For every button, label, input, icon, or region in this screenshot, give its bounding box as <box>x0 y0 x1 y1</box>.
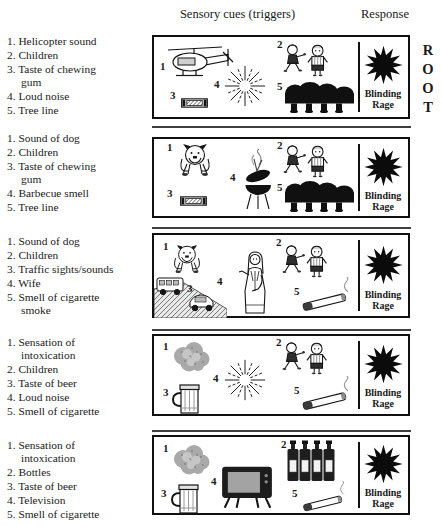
marker-4: 4 <box>211 476 217 487</box>
cue-item: 4. Barbecue smell <box>7 187 153 200</box>
separator-line <box>152 227 411 229</box>
cue-list-4: 1. Sensation of intoxication 2. Children… <box>7 336 153 418</box>
root-letter: O <box>420 79 436 98</box>
bulldog-icon <box>175 143 215 177</box>
response-label: Blinding Rage <box>357 190 409 212</box>
marker-1: 1 <box>163 341 169 352</box>
figure-trigger-diagram: Sensory cues (triggers) Response R O O T… <box>0 0 442 526</box>
marker-5: 5 <box>277 81 283 92</box>
marker-3: 3 <box>187 283 193 294</box>
cue-item: 3. Taste of beer <box>7 480 153 493</box>
noise-starburst-icon <box>222 63 268 109</box>
rage-burst-icon <box>362 245 405 285</box>
header-sensory-cues: Sensory cues (triggers) <box>155 7 320 22</box>
cue-item: 1. Sound of dog <box>7 132 153 145</box>
television-icon <box>219 465 275 509</box>
cue-item: 2. Children <box>7 49 153 62</box>
marker-3: 3 <box>170 90 176 101</box>
cue-item: 1. Sensation of intoxication <box>7 439 153 465</box>
cue-item: 2. Bottles <box>7 466 153 479</box>
cue-item: 5. Tree line <box>7 104 153 117</box>
marker-1: 1 <box>167 142 173 153</box>
children-icon <box>282 144 332 178</box>
cue-item: 5. Smell of cigarette <box>7 508 153 521</box>
cue-item: 3. Taste of chewing gum <box>7 63 153 89</box>
cue-item: 3. Traffic sights/sounds <box>7 263 153 276</box>
separator-line <box>152 126 411 128</box>
root-letter: O <box>420 60 436 79</box>
cue-item: 2. Children <box>7 146 153 159</box>
beer-mug-icon <box>172 383 201 414</box>
cue-item: 5. Tree line <box>7 201 153 214</box>
cue-item: 4. Television <box>7 494 153 507</box>
root-letter: R <box>420 41 436 60</box>
separator-line <box>152 430 411 432</box>
trigger-box-1: 1 3 4 2 5 Blinding Rage <box>152 35 410 119</box>
cue-item: 2. Children <box>7 363 153 376</box>
marker-2: 2 <box>281 439 287 450</box>
cue-list-2: 1. Sound of dog 2. Children 3. Taste of … <box>7 132 153 214</box>
cue-item: 4. Loud noise <box>7 90 153 103</box>
cue-list-5: 1. Sensation of intoxication 2. Bottles … <box>7 439 153 521</box>
marker-4: 4 <box>217 276 223 287</box>
wife-icon <box>238 251 272 315</box>
tree-line-icon <box>284 180 356 213</box>
cue-item: 1. Sound of dog <box>7 235 153 248</box>
marker-3: 3 <box>167 188 173 199</box>
cue-item: 3. Taste of chewing gum <box>7 160 153 186</box>
marker-1: 1 <box>163 443 169 454</box>
cigarette-icon <box>298 376 356 414</box>
marker-3: 3 <box>161 488 167 499</box>
cue-item: 5. Smell of cigarette <box>7 405 153 418</box>
cue-item: 1. Helicopter sound <box>7 35 153 48</box>
intoxication-cloud-icon <box>170 444 212 478</box>
children-icon <box>281 244 331 278</box>
cue-item: 2. Children <box>7 249 153 262</box>
cue-item: 4. Wife <box>7 277 153 290</box>
children-icon <box>281 341 331 375</box>
cigarette-icon <box>298 277 356 315</box>
marker-4: 4 <box>214 79 220 90</box>
intoxication-cloud-icon <box>170 341 212 375</box>
marker-5: 5 <box>277 182 283 193</box>
response-label: Blinding Rage <box>357 289 409 311</box>
rage-burst-icon <box>362 344 405 384</box>
root-label: R O O T <box>420 41 436 117</box>
cue-item: 5. Smell of cigarette smoke <box>7 291 153 317</box>
chewing-gum-icon <box>181 98 208 108</box>
cigarette-icon <box>296 481 354 515</box>
response-label: Blinding Rage <box>357 88 409 110</box>
header-response: Response <box>352 7 418 22</box>
trigger-box-4: 1 3 4 2 5 Blinding Rage <box>152 334 410 416</box>
trigger-box-3: 1 3 4 2 5 Blinding Rage <box>152 233 410 318</box>
bottles-icon <box>287 440 335 482</box>
response-label: Blinding Rage <box>357 487 409 509</box>
noise-starburst-icon <box>222 357 268 403</box>
cue-item: 4. Loud noise <box>7 391 153 404</box>
bulldog-icon <box>169 244 205 274</box>
cue-item: 3. Taste of beer <box>7 377 153 390</box>
marker-1: 1 <box>163 241 169 252</box>
tree-line-icon <box>284 81 356 114</box>
barbecue-grill-icon <box>238 149 278 211</box>
marker-4: 4 <box>230 172 236 183</box>
cue-list-1: 1. Helicopter sound 2. Children 3. Taste… <box>7 35 153 117</box>
rage-burst-icon <box>362 147 405 187</box>
trigger-box-5: 1 3 4 2 5 Blinding Rage <box>152 435 410 515</box>
beer-mug-icon <box>171 483 200 514</box>
cue-list-3: 1. Sound of dog 2. Children 3. Traffic s… <box>7 235 153 317</box>
rage-burst-icon <box>362 444 405 484</box>
children-icon <box>282 43 332 77</box>
marker-4: 4 <box>213 373 219 384</box>
marker-3: 3 <box>163 387 169 398</box>
rage-burst-icon <box>362 45 405 85</box>
root-letter: T <box>420 98 436 117</box>
response-label: Blinding Rage <box>357 387 409 409</box>
separator-line <box>152 329 411 331</box>
cue-item: 1. Sensation of intoxication <box>7 336 153 362</box>
trigger-box-2: 1 3 4 2 5 Blinding Rage <box>152 137 410 218</box>
chewing-gum-icon <box>180 196 207 206</box>
